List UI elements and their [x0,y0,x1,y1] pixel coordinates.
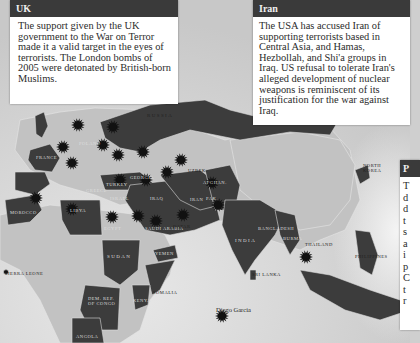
partial-panel-line: d [403,203,414,215]
label-turkey: TURKEY [106,182,128,187]
partial-panel-line: a [403,238,414,250]
label-qatar: QATAR [173,224,190,229]
partial-panel-line: i [403,249,414,261]
iran-panel-text: The USA has accused Iran of supporting t… [253,17,410,122]
partial-panel-line: t [403,215,414,227]
label-dr-congo: DEM. REP. OF CONGO [88,296,118,306]
country-angola [72,318,104,343]
label-sri-lanka: SRI LANKA [252,272,281,277]
label-morocco: MOROCCO [10,210,37,215]
label-yemen: YEMEN [155,251,174,256]
label-france: FRANCE [36,155,57,160]
label-india: INDIA [235,238,256,243]
label-georgia: GEORGIA [130,175,154,180]
uk-panel-title: UK [10,0,178,17]
partial-panel-line: C [403,272,414,284]
label-uzbek: UZBEK. [188,168,207,173]
label-bangladesh: BANGLADESH [258,226,294,231]
partial-panel-line: d [403,192,414,204]
label-greece: GREECE [86,188,107,193]
label-russia: RUSSIA [147,113,173,118]
label-afghanistan: AFGHAN. [203,180,227,185]
partial-panel-line: r [403,295,414,307]
label-diego-garcia: Diego Garcia [216,306,251,313]
partial-panel-title: P [400,160,420,177]
partial-info-panel: P TddtsaipCtr [400,160,420,330]
iran-panel-title: Iran [253,0,410,17]
partial-panel-line: p [403,261,414,273]
label-libya: LIBYA [70,208,86,213]
label-thailand: THAILAND [305,242,333,247]
label-sudan: SUDAN [107,254,131,259]
partial-panel-line: s [403,226,414,238]
label-burma: BURMA [283,236,302,241]
partial-panel-line: t [403,284,414,296]
partial-panel-text: TddtsaipCtr [400,177,420,313]
label-pakistan: PAK. [206,196,218,201]
uk-info-panel: UK The support given by the UK governmen… [10,0,178,104]
iran-info-panel: Iran The USA has accused Iran of support… [253,0,410,125]
label-sierra-leone: SIERRA LEONE [5,271,43,276]
uk-panel-text: The support given by the UK government t… [10,17,178,91]
label-kenya: KENYA [133,298,151,303]
partial-panel-line: T [403,180,414,192]
label-iran: IRAN [190,197,203,202]
label-north-korea: NORTH KOREA [363,163,385,173]
label-iraq: IRAQ [150,196,163,201]
label-angola: ANGOLA [76,334,98,339]
label-egypt: EGYPT [104,226,121,231]
label-poland: POLAND [79,141,101,146]
label-israel: ISRAEL [110,196,129,201]
label-somalia: SOMALIA [153,290,177,295]
label-philippines: PHILIPPINES [355,254,388,259]
